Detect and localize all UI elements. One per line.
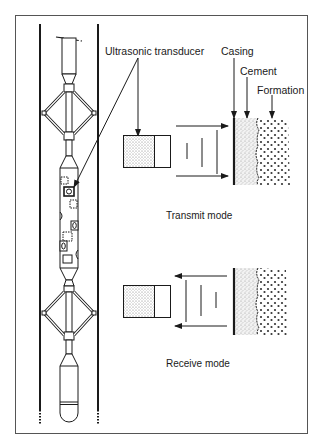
formation-layer [259,268,288,335]
transducer-crystal [124,136,155,168]
wavefronts [187,130,217,174]
wavefronts [186,280,216,322]
cement-layer [234,268,259,335]
logging-tool [42,37,96,422]
transducer-backing [155,136,171,168]
label-ultrasonic-transducer: Ultrasonic transducer [105,45,204,57]
receive-panel [124,268,289,335]
label-casing: Casing [221,45,254,57]
transducer-backing [155,286,171,318]
label-formation: Formation [257,84,304,96]
formation-layer [259,118,290,185]
cement-layer [234,118,259,185]
figure-frame [16,16,308,434]
transmit-panel [124,118,291,185]
caption-receive-mode: Receive mode [166,358,230,369]
label-cement: Cement [240,65,277,77]
caption-transmit-mode: Transmit mode [166,210,232,221]
transducer-crystal [124,286,155,318]
